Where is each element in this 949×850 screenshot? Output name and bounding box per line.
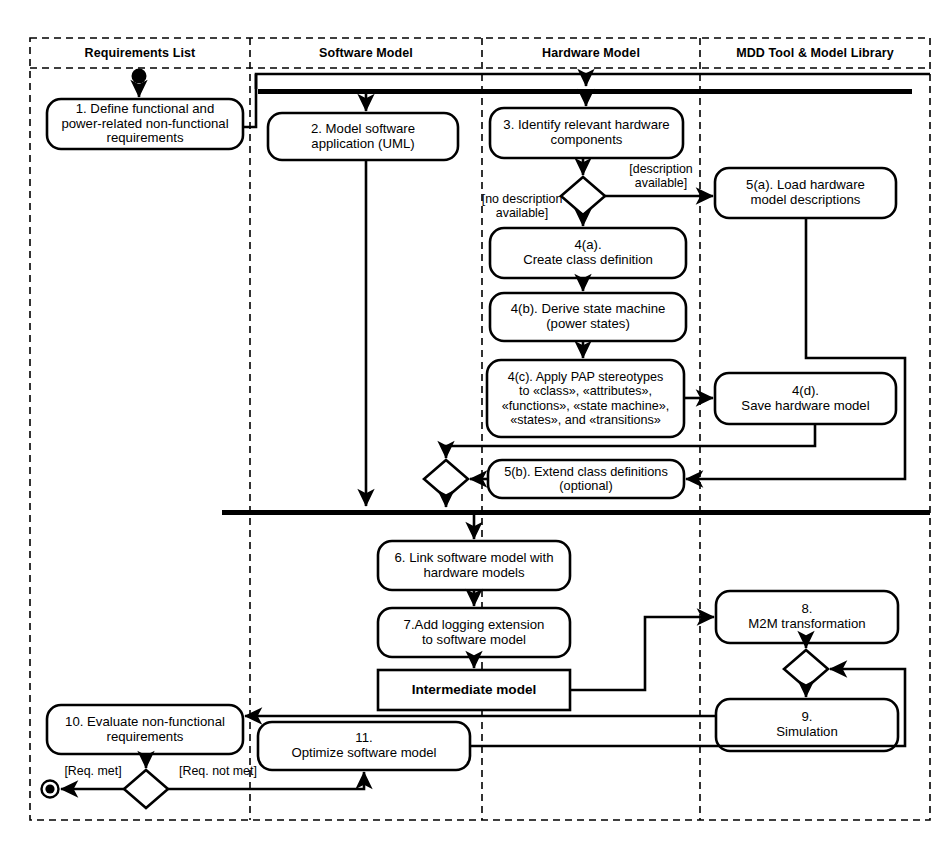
action-box-4c[interactable]	[487, 360, 684, 437]
lane-title-requirements-list: Requirements List	[30, 40, 250, 66]
action-box-9[interactable]	[716, 699, 898, 751]
action-box-5a[interactable]	[715, 168, 896, 218]
action-box-4b[interactable]	[490, 293, 686, 341]
action-box-4a[interactable]	[490, 228, 686, 278]
final-node	[42, 781, 59, 798]
join-bar-middle	[222, 510, 930, 515]
lane-label-text: Requirements List	[85, 46, 196, 60]
action-box-4d[interactable]	[715, 373, 896, 424]
object-node-intermediate-model[interactable]	[378, 670, 570, 710]
guard-req-not-met: [Req. not met]	[172, 763, 264, 781]
action-box-5b[interactable]	[488, 460, 684, 498]
lane-label-text: MDD Tool & Model Library	[736, 46, 894, 60]
action-box-2[interactable]	[268, 113, 458, 160]
guard-req-met: [Req. met]	[62, 763, 124, 781]
lane-label-text: Hardware Model	[542, 46, 640, 60]
guard-req-not-met-text: [Req. not met]	[179, 765, 257, 779]
fork-bar-top	[258, 89, 912, 94]
lane-label-text: Software Model	[319, 46, 413, 60]
initial-node	[132, 69, 147, 84]
edge-5a-to-5b	[686, 218, 905, 479]
guard-description-available-text: [descriptionavailable]	[629, 163, 692, 191]
lane-title-software-model: Software Model	[250, 40, 482, 66]
guard-description-available: [descriptionavailable]	[603, 160, 719, 194]
guard-req-met-text: [Req. met]	[64, 765, 121, 779]
diagram-svg	[0, 0, 949, 850]
guard-no-description-available: [no descriptionavailable]	[466, 190, 578, 224]
action-box-11[interactable]	[258, 722, 470, 770]
activity-diagram-canvas: Requirements List Software Model Hardwar…	[0, 0, 949, 850]
action-box-10[interactable]	[47, 705, 243, 754]
guard-no-description-available-text: [no descriptionavailable]	[482, 193, 563, 221]
decision-diamond-requirements[interactable]	[124, 770, 168, 808]
lane-title-hardware-model: Hardware Model	[482, 40, 700, 66]
action-box-1[interactable]	[47, 99, 243, 149]
merge-diamond-hardware[interactable]	[424, 460, 468, 498]
action-box-3[interactable]	[490, 108, 683, 158]
action-box-7[interactable]	[378, 608, 570, 657]
action-box-8[interactable]	[716, 591, 898, 643]
merge-diamond-simulation[interactable]	[784, 650, 828, 688]
edge-intermediate-to-8	[570, 617, 714, 690]
lane-title-mdd-tool-model-library: MDD Tool & Model Library	[700, 40, 930, 66]
action-box-6[interactable]	[378, 541, 570, 590]
